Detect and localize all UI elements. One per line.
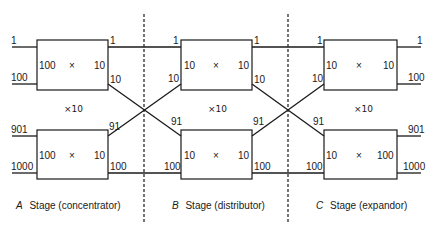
stage-description: Stage (expandor) <box>330 200 407 211</box>
switching-network-diagram: 1 100 901 1000 100 × 10 100 × 10 1 10 91… <box>0 0 432 226</box>
pin-label: 901 <box>408 124 425 135</box>
box-outputs-count: 10 <box>238 150 250 161</box>
replication-label: ×10 <box>208 104 227 114</box>
stage-c-caption: C Stage (expandor) <box>316 200 407 211</box>
pin-label: 100 <box>254 161 271 172</box>
box-cross: × <box>213 60 219 71</box>
box-inputs-count: 10 <box>326 60 338 71</box>
box-inputs-count: 10 <box>184 60 196 71</box>
pin-label: 10 <box>312 73 324 84</box>
box-outputs-count: 10 <box>238 60 250 71</box>
pin-label: 1 <box>11 35 17 46</box>
pin-label: 91 <box>253 116 265 127</box>
pin-label: 901 <box>11 124 28 135</box>
pin-label: 91 <box>313 116 325 127</box>
box-cross: × <box>213 150 219 161</box>
pin-label: 10 <box>254 74 266 85</box>
box-inputs-count: 100 <box>39 150 56 161</box>
box-outputs-count: 10 <box>383 60 395 71</box>
pin-label: 91 <box>109 121 121 132</box>
pin-label: 1 <box>173 35 179 46</box>
box-outputs-count: 10 <box>94 150 106 161</box>
pin-label: 100 <box>11 72 28 83</box>
pin-label: 1 <box>317 35 323 46</box>
stage-b-caption: B Stage (distributor) <box>172 200 265 211</box>
pin-label: 91 <box>171 116 183 127</box>
pin-label: 10 <box>110 74 122 85</box>
stage-letter: A <box>15 200 23 211</box>
box-cross: × <box>356 150 362 161</box>
pin-label: 10 <box>168 73 180 84</box>
pin-label: 1000 <box>11 161 34 172</box>
stage-letter: B <box>172 200 179 211</box>
pin-label: 100 <box>408 72 425 83</box>
pin-label: 1 <box>254 35 260 46</box>
pin-label: 100 <box>164 161 181 172</box>
box-outputs-count: 100 <box>377 150 394 161</box>
pin-label: 1 <box>417 35 423 46</box>
stage-description: Stage (distributor) <box>185 200 264 211</box>
box-inputs-count: 10 <box>326 150 338 161</box>
replication-label: ×10 <box>354 104 373 114</box>
pin-label: 100 <box>110 161 127 172</box>
pin-label: 1000 <box>403 161 426 172</box>
stage-letter: C <box>316 200 324 211</box>
replication-label: ×10 <box>64 104 83 114</box>
stage-description: Stage (concentrator) <box>29 200 120 211</box>
box-cross: × <box>69 60 75 71</box>
box-inputs-count: 10 <box>184 150 196 161</box>
stage-a-caption: A Stage (concentrator) <box>15 200 121 211</box>
pin-label: 1 <box>110 35 116 46</box>
pin-label: 100 <box>306 161 323 172</box>
box-cross: × <box>356 60 362 71</box>
box-cross: × <box>69 150 75 161</box>
box-inputs-count: 100 <box>39 60 56 71</box>
box-outputs-count: 10 <box>94 60 106 71</box>
